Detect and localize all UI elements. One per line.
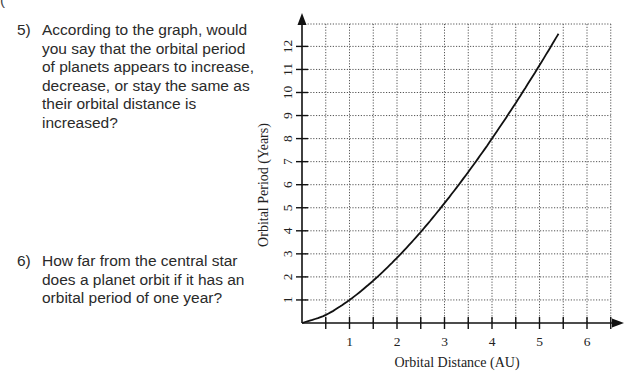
chart-axes — [298, 13, 625, 328]
x-tick-label: 6 — [584, 334, 591, 349]
y-tick-label: 12 — [280, 40, 295, 54]
x-tick-label: 4 — [489, 334, 496, 349]
x-tick-label: 5 — [536, 334, 543, 349]
y-axis-arrow-icon — [298, 13, 307, 25]
x-tick-label: 3 — [441, 334, 448, 349]
x-tick-label: 1 — [346, 334, 353, 349]
y-tick-label: 11 — [280, 63, 295, 76]
y-tick-label: 1 — [280, 297, 295, 304]
y-tick-label: 7 — [280, 158, 295, 165]
y-tick-labels: 123456789101112 — [280, 40, 295, 304]
orbital-period-chart: 123456 123456789101112 Orbital Distance … — [0, 0, 638, 383]
y-tick-label: 2 — [280, 274, 295, 281]
y-axis-title: Orbital Period (Years) — [256, 123, 272, 247]
data-curve — [302, 34, 559, 323]
y-tick-label: 6 — [280, 181, 295, 188]
y-tick-label: 4 — [280, 227, 295, 234]
x-axis-arrow-icon — [612, 319, 624, 328]
x-tick-labels: 123456 — [346, 334, 591, 349]
y-tick-label: 3 — [280, 250, 295, 257]
y-tick-label: 8 — [280, 135, 295, 142]
y-tick-label: 5 — [280, 204, 295, 211]
x-tick-label: 2 — [394, 334, 401, 349]
x-axis-title: Orbital Distance (AU) — [394, 355, 520, 371]
y-tick-label: 10 — [280, 86, 295, 100]
y-tick-label: 9 — [280, 112, 295, 119]
chart-grid — [302, 24, 611, 323]
